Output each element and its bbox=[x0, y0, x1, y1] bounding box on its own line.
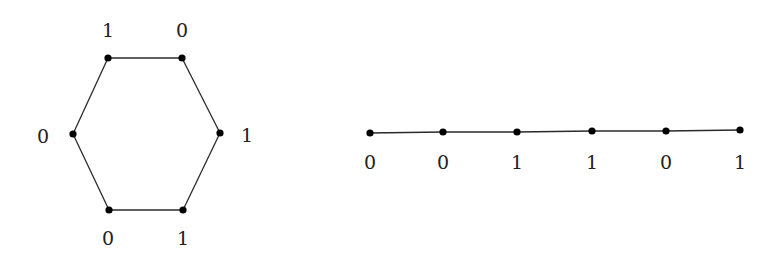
path-edge bbox=[517, 131, 592, 132]
path-vertex bbox=[366, 129, 373, 136]
path-vertex-label: 1 bbox=[586, 151, 598, 173]
path-vertex bbox=[513, 128, 520, 135]
path-vertex-label: 1 bbox=[734, 151, 746, 173]
path-graph: 001101 bbox=[364, 126, 746, 173]
path-vertex bbox=[439, 128, 446, 135]
path-edge bbox=[666, 130, 740, 131]
cycle-vertex bbox=[69, 130, 76, 137]
cycle-vertex bbox=[179, 206, 186, 213]
diagram-canvas: 101100 001101 bbox=[0, 0, 783, 259]
path-vertex-label: 0 bbox=[364, 151, 376, 173]
cycle-vertex bbox=[105, 206, 112, 213]
path-vertex-label: 0 bbox=[437, 151, 449, 173]
path-edge bbox=[370, 132, 443, 133]
cycle-vertex-label: 1 bbox=[177, 227, 189, 249]
cycle-vertex bbox=[216, 129, 223, 136]
path-vertex bbox=[662, 127, 669, 134]
cycle-vertex-label: 1 bbox=[102, 19, 114, 41]
cycle-vertex-label: 0 bbox=[37, 125, 49, 147]
cycle-vertex-label: 1 bbox=[241, 124, 253, 146]
cycle-vertex bbox=[178, 54, 185, 61]
cycle-edge bbox=[182, 58, 220, 133]
path-vertex-label: 1 bbox=[511, 151, 523, 173]
cycle-vertex-label: 0 bbox=[102, 227, 114, 249]
path-vertex bbox=[588, 127, 595, 134]
cycle-edge bbox=[183, 133, 220, 210]
cycle-graph: 101100 bbox=[37, 19, 253, 249]
cycle-vertex bbox=[104, 54, 111, 61]
cycle-edge bbox=[73, 58, 108, 134]
cycle-vertex-label: 0 bbox=[176, 19, 188, 41]
path-vertex-label: 0 bbox=[660, 151, 672, 173]
path-vertex bbox=[736, 126, 743, 133]
cycle-edge bbox=[73, 134, 109, 210]
